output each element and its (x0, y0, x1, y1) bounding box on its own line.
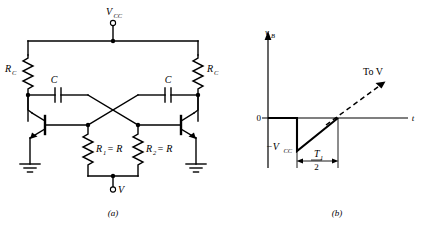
transistor-left-collector-lead (32, 113, 45, 121)
plot-min-label-sub: CC (284, 147, 293, 154)
transistor-right-collector-wire (194, 95, 198, 113)
coupling-capacitor-left-label: C (51, 74, 58, 85)
base-resistor-r1-eq: = R (107, 143, 122, 154)
period-label-sub: 1 (320, 154, 323, 161)
caption-a: (a) (108, 208, 119, 218)
plot-y-axis-label-sub: B (271, 32, 275, 39)
collector-resistor-left-label: R (4, 63, 11, 74)
collector-resistor-right-label: R (206, 63, 213, 74)
transistor-right-npn (181, 95, 198, 164)
figure-container: V CC R C R C C C R 1 = R R 2 = R V (a) v… (0, 0, 425, 233)
dim-arrowhead-right (332, 159, 339, 164)
figure-page: V CC R C R C C C R 1 = R R 2 = R V (a) v… (0, 0, 425, 233)
coupling-capacitor-right-label: C (165, 74, 172, 85)
plot-x-axis-label: t (412, 113, 415, 123)
bias-terminal-v (110, 187, 115, 192)
plot-min-label: −V (266, 141, 281, 152)
dim-arrowhead-left (297, 159, 304, 164)
period-denominator: 2 (314, 162, 319, 172)
transistor-left-npn (28, 95, 45, 164)
ground-left (20, 164, 40, 172)
supply-label-sub: CC (114, 12, 123, 19)
base-resistor-r1-sub: 1 (103, 149, 106, 156)
transistor-right-collector-lead (181, 113, 194, 121)
base-resistor-r1 (83, 125, 93, 176)
asymptote-dashed-line (326, 84, 382, 125)
collector-resistor-left-sub: C (12, 69, 17, 76)
plot-zero-label: 0 (257, 113, 262, 123)
caption-b: (b) (332, 208, 343, 218)
asymptote-label: To V (363, 66, 384, 77)
base-resistor-r2-label: R (145, 143, 152, 154)
plot-y-axis-label: v (265, 27, 269, 37)
collector-resistor-left (23, 55, 33, 95)
supply-terminal-vcc (110, 20, 115, 25)
base-resistor-r1-label: R (95, 143, 102, 154)
base-resistor-r2 (133, 125, 143, 176)
circuit-diagram-a (20, 20, 206, 192)
ground-right (186, 164, 206, 172)
collector-resistor-right (193, 55, 203, 95)
collector-resistor-right-sub: C (214, 69, 219, 76)
bias-terminal-label: V (118, 184, 126, 195)
transistor-left-collector-wire (28, 95, 32, 113)
base-resistor-r2-eq: = R (157, 143, 172, 154)
